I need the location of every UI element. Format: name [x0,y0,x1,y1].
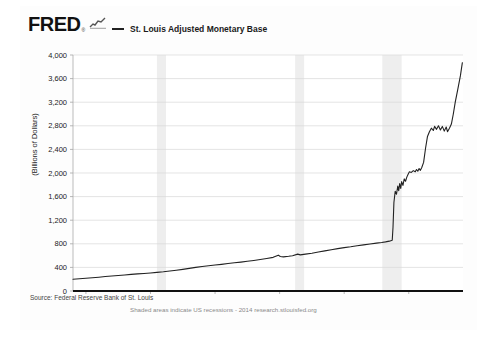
y-tick-label: 3,600 [48,74,67,83]
fred-chart-card: FRED ® St. Louis Adjusted Monetary Base … [20,6,477,330]
legend-swatch [112,28,124,30]
line-chart: 04008001,2001,6002,0002,4002,8003,2003,6… [20,36,477,298]
sparkline-icon [89,15,107,33]
y-tick-label: 1,600 [48,192,67,201]
chart-legend: St. Louis Adjusted Monetary Base [112,24,267,34]
y-tick-label: 2,000 [48,169,67,178]
y-tick-label: 2,400 [48,145,67,154]
recession-note-text: Shaded areas indicate US recessions - 20… [130,306,317,313]
fred-wordmark: FRED [28,14,80,34]
x-tick-label: 2005 [336,296,353,298]
y-tick-label: 4,000 [48,51,67,60]
x-tick-label: 1995 [207,296,224,298]
plot-area: (Billions of Dollars) 04008001,2001,6002… [20,36,477,298]
y-tick-label: 3,200 [48,98,67,107]
y-tick-label: 2,800 [48,121,67,130]
y-tick-label: 1,200 [48,216,67,225]
x-tick-label: 2010 [400,296,417,298]
y-tick-label: 400 [54,263,67,272]
source-text: Source: Federal Reserve Bank of St. Loui… [30,294,153,301]
y-tick-label: 800 [54,239,67,248]
legend-item-label: St. Louis Adjusted Monetary Base [130,24,267,34]
y-axis-label: (Billions of Dollars) [30,85,39,205]
fred-logo: FRED ® [28,14,107,34]
fred-trademark: ® [81,27,85,33]
x-tick-label: 2000 [271,296,288,298]
